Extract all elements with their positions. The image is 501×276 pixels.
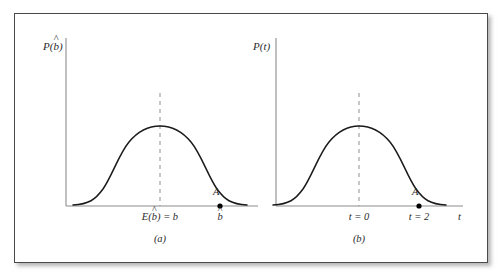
mean-tick-suffix-a: ) = b — [157, 211, 178, 222]
point-tick-label-a: ^b — [217, 211, 222, 222]
plot-canvas-b — [243, 14, 475, 264]
y-axis-label-suffix-a: ) — [59, 40, 63, 52]
figure-frame: P(^b) E(^b) = b ^b A (a) P(t) — [14, 13, 488, 263]
point-tick-label-b: t = 2 — [409, 211, 430, 222]
point-tick-variable-a: ^b — [217, 211, 222, 222]
mean-tick-prefix-a: E( — [142, 211, 152, 222]
mean-tick-label-a: E(^b) = b — [142, 211, 178, 222]
panel-caption-a: (a) — [154, 233, 166, 244]
x-axis-variable-label-b: t — [458, 211, 461, 222]
chart-panel-b: P(t) t = 0 t = 2 t A (b) — [243, 14, 475, 264]
y-axis-label-b: P(t) — [253, 40, 270, 52]
mean-tick-variable-a: ^b — [152, 211, 157, 222]
y-axis-label-prefix-a: P( — [43, 40, 53, 52]
panel-caption-b: (b) — [353, 233, 365, 244]
plot-canvas-a — [33, 14, 265, 264]
curve-annotation-b: A — [412, 186, 418, 197]
y-axis-label-a: P(^b) — [43, 40, 63, 52]
curve-annotation-a: A — [213, 186, 219, 197]
y-axis-label-variable-a: ^b — [53, 40, 59, 52]
marked-point-b — [416, 203, 421, 208]
hat-accent-icon: ^ — [152, 205, 157, 215]
hat-accent-icon: ^ — [54, 34, 59, 44]
hat-accent-icon: ^ — [218, 205, 223, 215]
chart-panel-a: P(^b) E(^b) = b ^b A (a) — [33, 14, 265, 264]
mean-tick-label-b: t = 0 — [349, 211, 370, 222]
